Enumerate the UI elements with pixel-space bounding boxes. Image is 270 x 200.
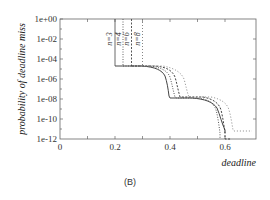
x-axis-title: deadline (222, 157, 257, 168)
x-tick-label: 0.2 (109, 142, 120, 152)
label-n8: n=8 (133, 32, 142, 45)
y-tick-label: 1e-10 (37, 114, 58, 124)
x-tick-label: 0.4 (164, 142, 176, 152)
label-n6: n=6 (122, 32, 131, 45)
y-tick-label: 1e+00 (34, 14, 57, 24)
x-tick-label: 0.6 (219, 142, 231, 152)
deadline-miss-chart: 1e+00 1e-02 1e-04 1e-06 1e-08 1e-10 1e-1… (0, 0, 270, 200)
x-tick-label: 0 (58, 142, 63, 152)
series-n4-line (123, 66, 220, 138)
y-tick-label: 1e-12 (37, 134, 58, 144)
y-axis-title: probability of deadline miss (16, 23, 27, 136)
y-tick-label: 1e-08 (37, 94, 58, 104)
y-tick-label: 1e-04 (37, 54, 58, 64)
plot-frame (60, 19, 256, 139)
panel-label: (B) (124, 177, 136, 187)
y-axis (60, 19, 256, 129)
series-n6-line (132, 66, 232, 139)
y-tick-label: 1e-06 (37, 74, 58, 84)
y-tick-label: 1e-02 (37, 34, 58, 44)
